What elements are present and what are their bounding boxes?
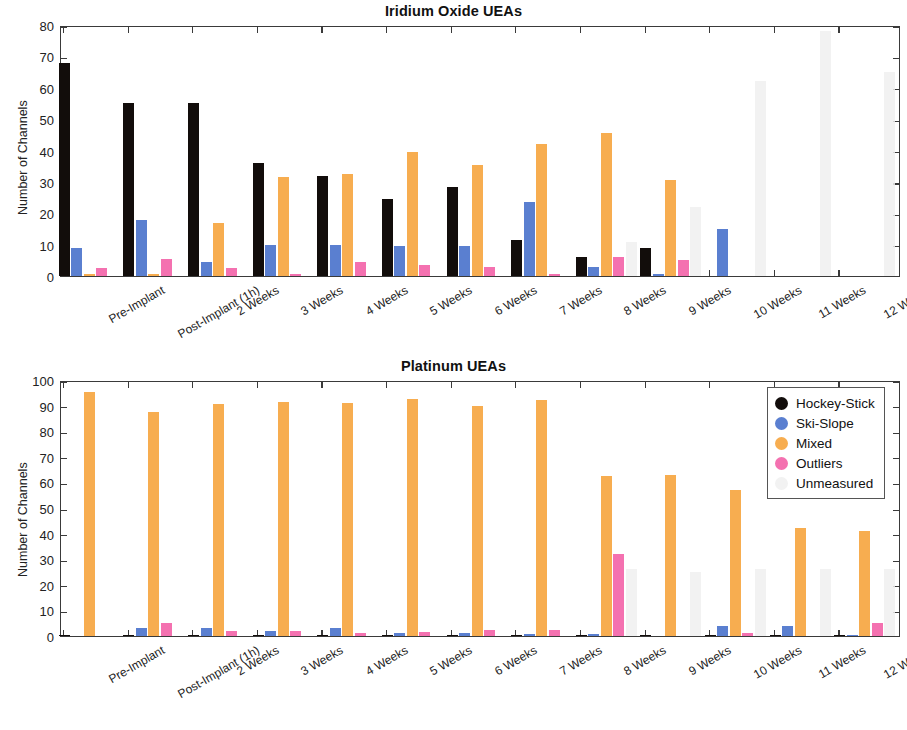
legend-swatch-hockey-stick-icon <box>775 397 788 410</box>
bar-mixed <box>472 165 483 276</box>
bar-mixed <box>342 403 353 636</box>
y-axis-tick-label: 10 <box>6 604 54 619</box>
bar-mixed <box>730 490 741 636</box>
bar-hockey-stick <box>511 635 522 637</box>
bar-outliers <box>355 262 366 276</box>
bar-hockey-stick <box>382 635 393 637</box>
bar-mixed <box>84 392 95 636</box>
y-axis-tick-mark <box>61 586 67 587</box>
bar-unmeasured <box>755 569 766 636</box>
bar-ski-slope <box>136 220 147 276</box>
bar-unmeasured <box>690 572 701 636</box>
bar-unmeasured <box>884 569 895 636</box>
bar-outliers <box>161 623 172 636</box>
bar-mixed <box>407 152 418 276</box>
bar-outliers <box>96 268 107 276</box>
x-axis-tick-mark <box>645 27 646 33</box>
chart-title-platinum: Platinum UEAs <box>0 358 907 374</box>
bar-hockey-stick <box>317 176 328 276</box>
x-axis-tick-label: 6 Weeks <box>492 283 539 318</box>
bar-outliers <box>549 630 560 636</box>
bar-mixed <box>665 475 676 636</box>
y-axis-tick-mark <box>893 407 899 408</box>
bar-ski-slope <box>717 229 728 276</box>
legend-swatch-unmeasured-icon <box>775 477 788 490</box>
x-axis-tick-mark <box>838 270 839 276</box>
legend-item[interactable]: Unmeasured <box>775 473 875 493</box>
figure-root: Iridium Oxide UEAs Number of Channels 01… <box>0 0 907 730</box>
y-axis-tick-mark <box>893 382 899 383</box>
legend-item[interactable]: Hockey-Stick <box>775 393 875 413</box>
x-axis-tick-mark <box>645 382 646 388</box>
bar-hockey-stick <box>576 257 587 276</box>
y-axis-tick-label: 80 <box>6 425 54 440</box>
bar-hockey-stick <box>59 635 70 637</box>
x-axis-tick-label: 12 Weeks <box>881 283 907 322</box>
bar-ski-slope <box>782 626 793 636</box>
bar-outliers <box>226 631 237 636</box>
bar-hockey-stick <box>640 248 651 276</box>
x-axis-tick-mark <box>386 382 387 388</box>
bar-mixed <box>859 531 870 636</box>
x-axis-tick-label: 10 Weeks <box>752 643 805 682</box>
bar-mixed <box>601 476 612 636</box>
bar-outliers <box>613 554 624 636</box>
bar-ski-slope <box>265 245 276 276</box>
x-axis-tick-mark <box>709 382 710 388</box>
bar-unmeasured <box>820 31 831 276</box>
bar-outliers <box>290 631 301 636</box>
chart-title-iridium-oxide: Iridium Oxide UEAs <box>0 3 907 19</box>
legend-swatch-outliers-icon <box>775 457 788 470</box>
x-axis-tick-label: 5 Weeks <box>428 283 475 318</box>
bar-outliers <box>484 267 495 276</box>
bar-unmeasured <box>884 72 895 276</box>
x-axis-tick-mark <box>386 27 387 33</box>
x-axis-tick-mark <box>192 27 193 33</box>
y-axis-tick-label: 10 <box>6 238 54 253</box>
y-axis-tick-label: 100 <box>6 374 54 389</box>
y-axis-tick-mark <box>893 27 899 28</box>
x-axis-tick-label: 5 Weeks <box>428 643 475 678</box>
y-axis-tick-mark <box>61 561 67 562</box>
bar-mixed <box>795 528 806 636</box>
bar-ski-slope <box>330 628 341 636</box>
bar-ski-slope <box>201 262 212 276</box>
bar-outliers <box>419 632 430 636</box>
y-axis-tick-label: 30 <box>6 175 54 190</box>
bar-ski-slope <box>394 246 405 276</box>
bar-hockey-stick <box>253 163 264 276</box>
bar-outliers <box>161 259 172 276</box>
y-axis-tick-mark <box>61 407 67 408</box>
legend-item[interactable]: Mixed <box>775 433 875 453</box>
legend-item[interactable]: Ski-Slope <box>775 413 875 433</box>
y-axis-tick-mark <box>61 484 67 485</box>
x-axis-tick-label: 3 Weeks <box>298 283 345 318</box>
legend-label: Outliers <box>796 456 843 471</box>
bar-hockey-stick <box>188 635 199 637</box>
legend-label: Mixed <box>796 436 832 451</box>
x-axis-tick-label: 4 Weeks <box>363 283 410 318</box>
bar-hockey-stick <box>382 199 393 276</box>
bar-ski-slope <box>71 248 82 276</box>
x-axis-tick-label: Pre-Implant <box>107 643 168 686</box>
bar-unmeasured <box>626 569 637 636</box>
x-axis-tick-mark <box>774 270 775 276</box>
x-axis-tick-mark <box>128 382 129 388</box>
legend-item[interactable]: Outliers <box>775 453 875 473</box>
bar-outliers <box>290 274 301 277</box>
bar-ski-slope <box>847 635 858 637</box>
y-axis-tick-mark <box>893 458 899 459</box>
bar-mixed <box>407 399 418 636</box>
bar-ski-slope <box>588 267 599 276</box>
y-axis-tick-label: 70 <box>6 50 54 65</box>
bar-ski-slope <box>330 245 341 276</box>
y-axis-tick-label: 90 <box>6 399 54 414</box>
bar-outliers <box>355 633 366 636</box>
y-axis-tick-mark <box>61 433 67 434</box>
bar-ski-slope <box>717 626 728 636</box>
y-axis-tick-label: 30 <box>6 553 54 568</box>
x-axis-tick-mark <box>63 27 64 33</box>
x-axis-tick-mark <box>580 382 581 388</box>
bar-mixed <box>278 177 289 276</box>
x-axis-tick-label: 7 Weeks <box>557 643 604 678</box>
